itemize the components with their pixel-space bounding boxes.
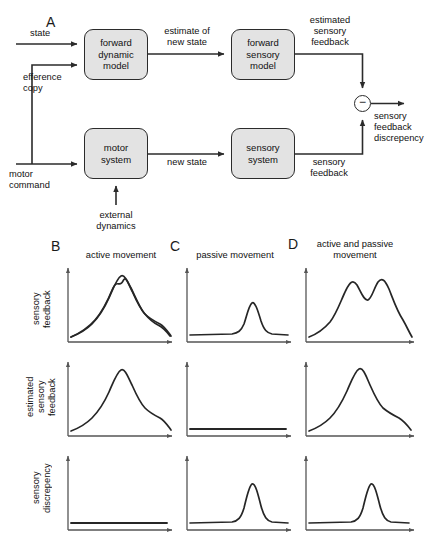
label-external-dynamics: external dynamics — [85, 210, 147, 232]
box-motor-system[interactable]: motor system — [84, 128, 148, 179]
row-label-sensory-feedback: sensory feedback — [31, 278, 53, 340]
plot-D-sensory-feedback — [306, 268, 414, 342]
box-motor-system-label: motor system — [101, 142, 131, 165]
box-sensory-system[interactable]: sensory system — [231, 128, 295, 179]
label-sensory-feedback: sensory feedback — [299, 157, 359, 179]
column-title-passive-movement: passive movement — [180, 250, 290, 261]
plot-C-sensory-feedback — [187, 268, 291, 342]
box-sensory-system-label: sensory system — [246, 142, 279, 165]
plot-grid — [0, 0, 444, 549]
plot-D-sensory-discrepency — [306, 456, 414, 530]
plot-C-estimated-sensory-feedback — [187, 362, 291, 436]
plot-C-sensory-discrepency — [187, 456, 291, 530]
row-label-estimated-sensory-feedback: estimated sensory feedback — [25, 362, 58, 432]
column-title-active-and-passive-movement: active and passive movement — [300, 239, 410, 261]
label-motor-command: motor command — [9, 169, 50, 191]
box-forward-sensory-model-label: forward sensory model — [246, 37, 279, 72]
label-estimate-of-new-state: estimate of new state — [155, 26, 219, 48]
box-forward-dynamic-model[interactable]: forward dynamic model — [84, 29, 148, 80]
row-label-sensory-discrepency: sensory discrepency — [31, 455, 53, 521]
panel-letter-b: B — [51, 238, 61, 254]
plot-B-sensory-discrepency — [68, 456, 172, 530]
figure-root: A forward dynamic model forward sensory … — [0, 0, 444, 549]
label-efference-copy: efference copy — [23, 72, 62, 94]
diagram-connectors — [0, 0, 444, 549]
label-sensory-feedback-discrepency: sensory feedback discrepency — [374, 111, 424, 143]
box-forward-dynamic-model-label: forward dynamic model — [98, 37, 133, 72]
column-title-active-movement: active movement — [66, 250, 176, 261]
label-state: state — [30, 28, 50, 39]
plot-D-estimated-sensory-feedback — [306, 362, 414, 436]
label-new-state: new state — [156, 157, 218, 168]
box-forward-sensory-model[interactable]: forward sensory model — [231, 29, 295, 80]
comparator-node[interactable]: − — [354, 95, 371, 112]
comparator-minus-sign: − — [359, 96, 366, 108]
label-estimated-sensory-feedback: estimated sensory feedback — [299, 15, 361, 47]
plot-B-sensory-feedback — [68, 268, 172, 342]
plot-B-estimated-sensory-feedback — [68, 362, 172, 436]
